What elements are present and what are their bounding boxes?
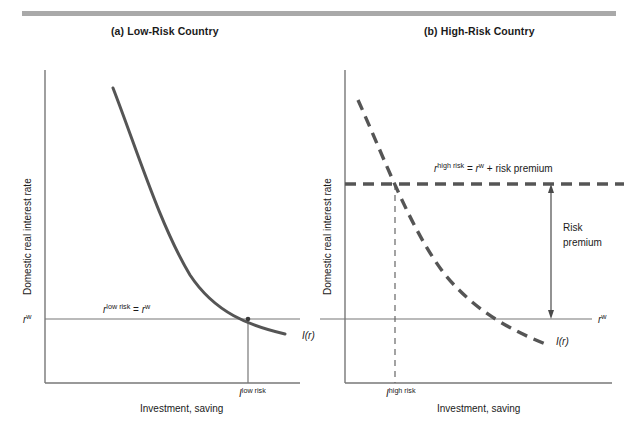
world-rate-label-low-risk: rw (23, 312, 32, 325)
rate-equation-high-risk: rhigh risk = rw + risk premium (434, 161, 553, 174)
risk-premium-annotation-line1: Risk (563, 222, 582, 233)
investment-label-high-risk: Ihigh risk (386, 386, 416, 399)
curve-label-low-risk: I(r) (302, 330, 315, 341)
investment-curve-low-risk (113, 88, 285, 334)
y-axis-title-high-risk: Domestic real interest rate (322, 178, 333, 295)
investment-sup-low: low risk (242, 386, 266, 395)
figure-container: (a) Low-Risk Country (b) High-Risk Count… (0, 0, 636, 431)
risk-premium-arrow-head-down (548, 310, 554, 319)
investment-label-low-risk: Ilow risk (239, 386, 266, 399)
panel-low-risk-graph (45, 70, 300, 383)
y-axis-title-low-risk: Domestic real interest rate (22, 178, 33, 295)
investment-curve-high-risk (358, 100, 548, 345)
rate-eq-lhs-sup-high: high risk (437, 161, 464, 170)
x-axis-title-low-risk: Investment, saving (140, 403, 223, 414)
world-rate-sup-high-risk: w (601, 312, 606, 321)
world-rate-label-high-risk: rw (598, 312, 607, 325)
curve-label-high-risk: I(r) (556, 336, 569, 347)
rate-eq-rhs-sup-low: w (145, 302, 150, 311)
equilibrium-point-low-risk (246, 317, 251, 322)
x-axis-title-high-risk: Investment, saving (437, 403, 520, 414)
diagram-canvas (0, 0, 636, 431)
rate-eq-premium-high: + risk premium (487, 163, 553, 174)
rate-equation-low-risk: rlow risk = rw (103, 302, 150, 315)
risk-premium-annotation-line2: premium (563, 237, 602, 248)
investment-sup-high: high risk (389, 386, 416, 395)
rate-eq-lhs-sup-low: low risk (106, 302, 130, 311)
world-rate-sup-low-risk: w (26, 312, 31, 321)
